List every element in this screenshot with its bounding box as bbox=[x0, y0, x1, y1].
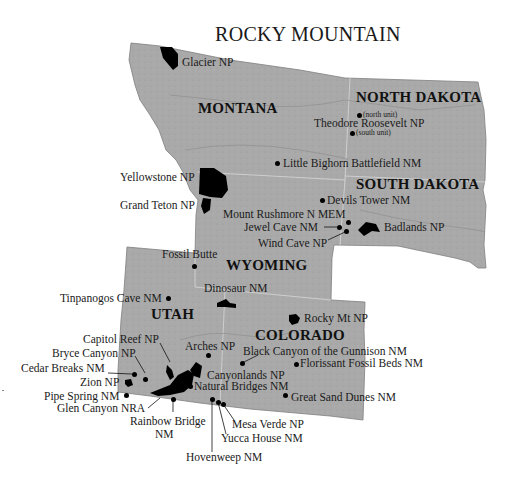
leader-glen-canyon bbox=[148, 398, 160, 408]
site-natural-bridges: Natural Bridges NM bbox=[194, 381, 289, 393]
site-grand-teton-np: Grand Teton NP bbox=[120, 200, 195, 212]
state-label-south-dakota: SOUTH DAKOTA bbox=[356, 177, 479, 192]
site-marker-little-bighorn bbox=[275, 161, 280, 166]
site-pipe-spring: Pipe Spring NM bbox=[44, 391, 119, 403]
site-bryce-canyon: Bryce Canyon NP bbox=[52, 348, 136, 360]
site-florissant: Florissant Fossil Beds NM bbox=[300, 358, 423, 370]
site-glen-canyon: Glen Canyon NRA bbox=[57, 403, 145, 415]
site-devils-tower: Devils Tower NM bbox=[327, 195, 410, 207]
site-marker-wind-cave bbox=[344, 229, 349, 234]
site-marker-arches bbox=[206, 353, 211, 358]
site-cedar-breaks: Cedar Breaks NM bbox=[21, 363, 105, 375]
site-marker-black-canyon bbox=[240, 361, 245, 366]
site-badlands-np: Badlands NP bbox=[384, 222, 444, 234]
site-fossil-butte: Fossil Butte bbox=[162, 249, 217, 261]
site-marker-bryce bbox=[143, 377, 148, 382]
site-mesa-verde: Mesa Verde NP bbox=[232, 419, 304, 431]
site-great-sand-dunes: Great Sand Dunes NM bbox=[291, 392, 396, 404]
site-marker-jewel-cave bbox=[337, 225, 342, 230]
site-rocky-mt-np: Rocky Mt NP bbox=[304, 313, 368, 325]
site-arches-np: Arches NP bbox=[185, 341, 235, 353]
site-wind-cave: Wind Cave NP bbox=[258, 238, 327, 250]
site-capitol-reef: Capitol Reef NP bbox=[83, 334, 159, 346]
site-marker-mount-rushmore bbox=[346, 220, 351, 225]
site-black-canyon: Black Canyon of the Gunnison NM bbox=[243, 346, 407, 358]
site-mount-rushmore: Mount Rushmore N MEM bbox=[223, 209, 345, 221]
site-glacier-np: Glacier NP bbox=[182, 57, 233, 69]
state-label-wyoming: WYOMING bbox=[226, 258, 307, 273]
site-marker-pipe-spring bbox=[124, 393, 129, 398]
site-marker-hovenweep bbox=[210, 397, 215, 402]
site-marker-great-sand-dunes bbox=[283, 393, 288, 398]
site-tinpanogos-cave: Tinpanogos Cave NM bbox=[60, 293, 162, 305]
site-yucca-house: Yucca House NM bbox=[221, 433, 303, 445]
state-label-utah: UTAH bbox=[151, 307, 194, 322]
site-tr-south-unit: (south unit) bbox=[356, 129, 391, 137]
site-yellowstone-np: Yellowstone NP bbox=[120, 172, 195, 184]
site-rainbow-bridge: Rainbow Bridge bbox=[130, 416, 206, 428]
site-rainbow-bridge-nm: NM bbox=[155, 429, 174, 441]
site-marker-florissant bbox=[294, 362, 299, 367]
site-marker-tr-south bbox=[350, 131, 355, 136]
state-label-montana: MONTANA bbox=[198, 101, 277, 116]
site-marker-cedar-breaks bbox=[132, 372, 137, 377]
site-marker-mesa-verde bbox=[221, 402, 226, 407]
site-little-bighorn: Little Bighorn Battlefield NM bbox=[283, 158, 421, 170]
site-marker-tinpanogos bbox=[166, 296, 171, 301]
state-label-north-dakota: NORTH DAKOTA bbox=[356, 90, 481, 105]
site-jewel-cave: Jewel Cave NM bbox=[244, 222, 318, 234]
site-marker-rainbow-bridge bbox=[171, 397, 176, 402]
site-marker-natural-bridges bbox=[188, 384, 193, 389]
site-marker-fossil-butte bbox=[192, 264, 197, 269]
site-dinosaur-nm: Dinosaur NM bbox=[204, 283, 268, 295]
state-label-colorado: COLORADO bbox=[255, 328, 345, 343]
site-marker-devils-tower bbox=[320, 198, 325, 203]
site-hovenweep: Hovenweep NM bbox=[186, 452, 262, 464]
edge-mark bbox=[2, 390, 4, 391]
site-zion-np: Zion NP bbox=[80, 377, 119, 389]
